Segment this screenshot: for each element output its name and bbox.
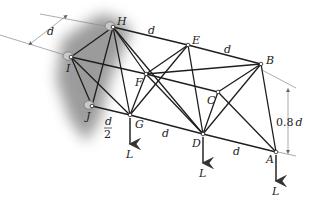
dim-J-G-numerator: d (105, 115, 112, 128)
label-G: G (135, 118, 144, 131)
joint-A (274, 150, 278, 154)
label-B: B (265, 54, 274, 67)
dim-top-left: d (47, 25, 54, 38)
joint-F (144, 72, 148, 76)
joint-E (186, 43, 190, 47)
label-C: C (207, 94, 216, 107)
load-label-A: L (271, 185, 279, 198)
member-H-D (113, 27, 203, 134)
joint-C (216, 90, 220, 94)
dim-H-E: d (148, 24, 155, 37)
joint-G (128, 113, 132, 117)
joint-D (201, 132, 205, 136)
joint-J (90, 104, 94, 108)
dim-G-D: d (162, 127, 169, 140)
dim-E-B: d (224, 43, 231, 56)
dim-J-G-denominator: 2 (104, 128, 111, 141)
member-F-B (146, 64, 261, 74)
joint-I (69, 55, 73, 59)
label-D: D (191, 137, 201, 150)
label-A: A (265, 153, 274, 166)
member-C-B (218, 64, 261, 92)
label-H: H (116, 15, 127, 28)
dim-height-value: 0.8d (276, 116, 303, 129)
label-E: E (191, 34, 200, 47)
joint-B (259, 62, 263, 66)
wall-shadow (56, 14, 132, 142)
label-F: F (134, 76, 143, 89)
load-label-D: L (198, 167, 206, 180)
label-I: I (65, 62, 71, 75)
label-J: J (84, 110, 91, 123)
load-label-G: L (125, 148, 133, 161)
load-labels: L L L (125, 148, 279, 198)
space-truss-diagram: H I J G F E C D B A d d d d 2 d d 0.8d L… (0, 0, 315, 205)
dim-D-A: d (233, 145, 240, 158)
joint-H (111, 25, 115, 29)
